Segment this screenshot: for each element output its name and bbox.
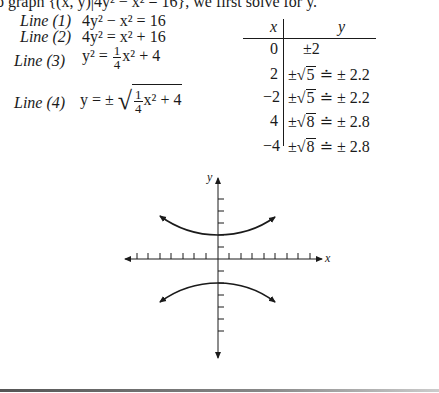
x-axis-label: x: [325, 251, 330, 266]
y-axis: [218, 178, 224, 358]
page-bottom-rule: [0, 389, 439, 392]
upper-branch: [218, 217, 275, 235]
lower-branch: [160, 283, 218, 302]
lower-branch: [218, 283, 275, 302]
upper-branch: [160, 216, 218, 235]
hyperbola-graph: [0, 0, 439, 393]
y-axis-label: y: [207, 170, 212, 185]
x-axis: [125, 253, 322, 259]
